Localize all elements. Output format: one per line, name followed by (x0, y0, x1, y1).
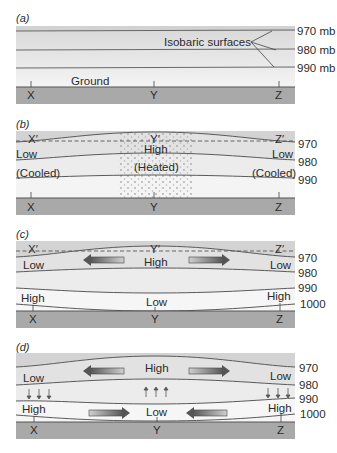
panel-b: (b) X′ Y′ Z′ Low (Cooled) High (Heated) … (16, 118, 317, 215)
lower-center-low: Low (146, 406, 168, 418)
isobar-label-1000: 1000 (300, 408, 326, 420)
right-low-label: Low (272, 148, 294, 160)
panel-d: (d) (16, 341, 326, 439)
point-z-prime: Z′ (275, 243, 284, 255)
point-z: Z (275, 89, 282, 101)
isobar-label-970: 970 (298, 252, 317, 264)
point-y: Y (150, 201, 158, 213)
point-x-prime: X′ (28, 243, 38, 255)
panel-b-label: (b) (16, 118, 30, 130)
ground-label: Ground (71, 75, 109, 87)
upper-center-high: High (145, 362, 169, 374)
upper-left-low: Low (23, 259, 45, 271)
isobar-label-1000: 1000 (300, 298, 326, 310)
isobar-label-980: 980 (299, 379, 318, 391)
center-heated-label: (Heated) (134, 161, 179, 173)
isobar-label-990: 990 (299, 393, 318, 405)
panel-a-label: (a) (16, 12, 30, 24)
isobar-label-980: 980 mb (297, 44, 335, 56)
isobar-label-970: 970 (298, 138, 317, 150)
point-y: Y (150, 89, 158, 101)
isobaric-surfaces-label: Isobaric surfaces (164, 36, 251, 48)
upper-right-low: Low (270, 370, 292, 382)
upper-right-low: Low (270, 259, 292, 271)
isobar-label-970: 970 mb (297, 25, 335, 37)
upper-left-low: Low (23, 372, 45, 384)
point-y-prime: Y′ (150, 243, 160, 255)
point-x: X (29, 313, 37, 325)
center-high-label: High (144, 143, 168, 155)
atmosphere (16, 26, 295, 87)
upper-center-high: High (144, 256, 168, 268)
lower-center-low: Low (146, 296, 168, 308)
point-z: Z (277, 424, 284, 436)
isobar-label-980: 980 (298, 156, 317, 168)
left-cooled-label: (Cooled) (16, 167, 60, 179)
lower-left-high: High (21, 292, 45, 304)
lower-left-high: High (22, 403, 46, 415)
panel-c-label: (c) (16, 228, 29, 240)
left-low-label: Low (16, 148, 38, 160)
isobar-label-990: 990 (298, 282, 317, 294)
point-y: Y (153, 424, 161, 436)
isobar-label-990: 990 mb (297, 62, 335, 74)
isobar-label-990: 990 (298, 174, 317, 186)
point-x: X (30, 424, 38, 436)
point-x: X (27, 201, 35, 213)
lower-right-high: High (268, 402, 292, 414)
isobar-label-970: 970 (299, 362, 318, 374)
pressure-diagram: (a) Isobaric surfaces Ground 970 mb 980 … (0, 0, 337, 453)
isobar-label-980: 980 (298, 267, 317, 279)
panel-c: (c) X′ Y′ Z′ Low High Low High Low High … (16, 228, 326, 328)
panel-d-label: (d) (16, 341, 30, 353)
point-z: Z (276, 313, 283, 325)
point-z: Z (275, 201, 282, 213)
point-z-prime: Z′ (275, 133, 284, 145)
point-x-prime: X′ (28, 133, 38, 145)
point-y: Y (151, 313, 159, 325)
lower-right-high: High (267, 290, 291, 302)
right-cooled-label: (Cooled) (252, 167, 296, 179)
point-x: X (27, 89, 35, 101)
panel-a: (a) Isobaric surfaces Ground 970 mb 980 … (16, 12, 335, 104)
